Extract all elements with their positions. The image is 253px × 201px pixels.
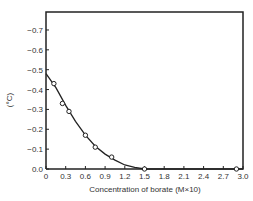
data-point	[60, 101, 64, 105]
x-tick-label: 2.1	[178, 172, 190, 181]
x-tick-label: 1.8	[159, 172, 171, 181]
plot-frame	[46, 12, 243, 169]
y-tick-label: −0.5	[27, 66, 43, 75]
data-point	[52, 81, 56, 85]
x-tick-label: 1.2	[119, 172, 131, 181]
x-tick-label: 1.5	[139, 172, 151, 181]
x-tick-label: 0.9	[100, 172, 112, 181]
data-point	[67, 109, 71, 113]
x-tick-label: 2.7	[218, 172, 230, 181]
y-tick-label: −0.3	[27, 105, 43, 114]
y-tick-label: 0.0	[32, 165, 44, 174]
x-tick-label: 0.3	[60, 172, 72, 181]
data-point	[93, 145, 97, 149]
y-tick-label: −0.6	[27, 46, 43, 55]
x-tick-label: 2.4	[198, 172, 210, 181]
x-tick-label: 3.0	[237, 172, 249, 181]
data-point	[142, 167, 146, 171]
fitted-curve	[46, 74, 243, 169]
data-point	[109, 155, 113, 159]
y-tick-label: −0.2	[27, 125, 43, 134]
x-tick-label: 0	[44, 172, 49, 181]
y-tick-label: −0.1	[27, 145, 43, 154]
axes-frame	[46, 12, 243, 169]
y-tick-label: −0.4	[27, 86, 43, 95]
data-point	[83, 133, 87, 137]
y-axis-label: (°C)	[5, 93, 14, 108]
x-axis-label: Concentration of borate (M×10)	[89, 185, 201, 194]
data-point	[234, 167, 238, 171]
x-tick-label: 0.6	[80, 172, 92, 181]
y-tick-label: −0.7	[27, 26, 43, 35]
chart: 0.0−0.1−0.2−0.3−0.4−0.5−0.6−0.7 00.30.60…	[0, 0, 253, 201]
